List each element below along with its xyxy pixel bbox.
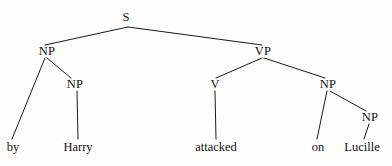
tree-node-np-left: NP <box>39 45 55 58</box>
tree-node-s: S <box>122 11 129 24</box>
tree-edge <box>12 58 45 139</box>
tree-leaf-harry: Harry <box>63 141 92 154</box>
tree-node-v: V <box>210 78 219 91</box>
tree-leaf-attacked: attacked <box>195 141 237 154</box>
tree-edge <box>216 58 262 78</box>
tree-edge <box>330 91 366 111</box>
tree-leaf-on: on <box>312 141 325 154</box>
tree-leaf-lucille: Lucille <box>344 141 379 154</box>
tree-node-vp: VP <box>255 45 271 58</box>
tree-node-np-harry: NP <box>67 78 83 91</box>
tree-edge <box>317 91 327 139</box>
syntax-tree-figure: SNPVPNPVNPNP byHarryattackedonLucille <box>0 0 392 166</box>
tree-edge <box>77 91 78 139</box>
tree-edge <box>264 58 325 78</box>
tree-edge <box>47 58 71 78</box>
tree-edge <box>364 124 369 139</box>
tree-edge <box>45 27 128 45</box>
tree-leaf-by: by <box>7 141 20 154</box>
tree-edge <box>128 27 262 45</box>
edge-group <box>12 27 369 139</box>
tree-node-np-right: NP <box>320 78 336 91</box>
tree-edge <box>215 91 216 139</box>
tree-node-np-luc: NP <box>362 111 378 124</box>
